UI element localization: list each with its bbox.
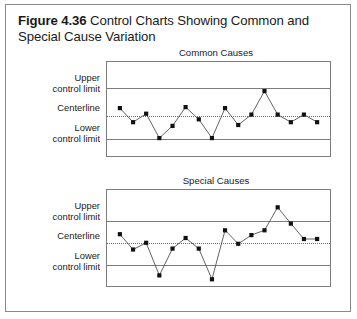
data-point-marker: [249, 233, 253, 237]
data-point-marker: [131, 247, 135, 251]
axis-label-lower-control-limit: Lower control limit: [22, 123, 100, 144]
data-point-marker: [157, 136, 161, 140]
chart-special-causes: Special Causes Upper control limit Cente…: [6, 175, 352, 307]
data-point-marker: [144, 241, 148, 245]
data-point-marker: [184, 105, 188, 109]
axis-label-upper-control-limit: Upper control limit: [22, 201, 100, 222]
data-point-marker: [262, 89, 266, 93]
data-point-marker: [302, 237, 306, 241]
data-point-marker: [262, 228, 266, 232]
chart-common-causes-axis-labels: Upper control limit Centerline Lower con…: [20, 47, 100, 165]
data-point-marker: [236, 242, 240, 246]
series-polyline: [120, 91, 317, 138]
data-point-marker: [302, 113, 306, 117]
data-point-marker: [170, 124, 174, 128]
data-point-marker: [157, 273, 161, 277]
data-point-marker: [223, 106, 227, 110]
figure-title: Figure 4.36 Control Charts Showing Commo…: [18, 13, 340, 44]
axis-label-lower-control-limit: Lower control limit: [22, 251, 100, 272]
chart-special-causes-plot-area: [106, 189, 331, 287]
axis-label-centerline: Centerline: [22, 103, 100, 114]
chart-special-causes-title: Special Causes: [101, 175, 331, 186]
data-point-marker: [197, 247, 201, 251]
data-point-marker: [118, 232, 122, 236]
figure-label: Figure 4.36: [18, 13, 87, 28]
figure-frame: Figure 4.36 Control Charts Showing Commo…: [5, 4, 351, 312]
data-point-marker: [210, 136, 214, 140]
data-point-marker: [210, 277, 214, 281]
data-point-marker: [131, 120, 135, 124]
data-point-marker: [144, 112, 148, 116]
series-polyline: [120, 207, 317, 279]
data-point-marker: [315, 237, 319, 241]
data-point-marker: [249, 113, 253, 117]
data-point-marker: [276, 113, 280, 117]
data-point-marker: [118, 106, 122, 110]
axis-label-upper-control-limit: Upper control limit: [22, 73, 100, 94]
data-point-marker: [289, 222, 293, 226]
data-point-marker: [170, 247, 174, 251]
data-point-marker: [223, 228, 227, 232]
chart-common-causes: Common Causes Upper control limit Center…: [6, 47, 352, 165]
data-point-marker: [289, 120, 293, 124]
data-point-marker: [197, 117, 201, 121]
chart-common-causes-plot-area: [106, 61, 331, 157]
chart-special-causes-series: [107, 190, 330, 286]
chart-common-causes-title: Common Causes: [101, 47, 331, 58]
data-point-marker: [236, 123, 240, 127]
chart-special-causes-axis-labels: Upper control limit Centerline Lower con…: [20, 175, 100, 307]
axis-label-centerline: Centerline: [22, 231, 100, 242]
data-point-marker: [276, 205, 280, 209]
data-point-marker: [184, 236, 188, 240]
data-point-marker: [315, 120, 319, 124]
chart-common-causes-series: [107, 62, 330, 156]
